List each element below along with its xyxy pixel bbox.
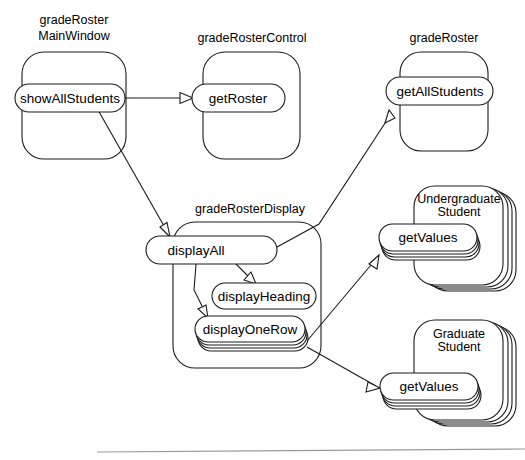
operation-show-all-students[interactable]: showAllStudents <box>15 84 125 112</box>
operation-get-roster[interactable]: getRoster <box>192 84 285 112</box>
operation-get-all-students[interactable]: getAllStudents <box>386 77 493 105</box>
object-label-graduate-student-line1: Graduate <box>433 327 485 341</box>
operation-get-values-undergraduate[interactable]: getValues <box>379 224 480 260</box>
object-label-graduate-student-line2: Student <box>437 340 481 354</box>
message-display-one-row-to-get-values-graduate[interactable] <box>307 347 380 392</box>
operation-label-get-roster: getRoster <box>209 91 268 106</box>
arrowhead-open-triangle-get-values-graduate <box>366 382 380 392</box>
message-line-display-one-row-to-get-values-graduate <box>307 347 376 386</box>
object-label-grade-roster-main-window-line2: MainWindow <box>38 29 111 43</box>
bottom-divider-rule <box>97 449 525 452</box>
object-label-grade-roster-main-window-line1: gradeRoster <box>40 13 109 27</box>
operation-label-display-one-row: displayOneRow <box>203 322 298 337</box>
object-label-grade-roster-control: gradeRosterControl <box>197 31 306 45</box>
object-label-grade-roster: gradeRoster <box>410 31 479 45</box>
operation-label-get-all-students: getAllStudents <box>396 84 483 99</box>
operation-label-show-all-students: showAllStudents <box>20 91 120 106</box>
operation-label-get-values-graduate: getValues <box>399 379 458 394</box>
uml-collaboration-diagram: gradeRoster MainWindow gradeRosterContro… <box>0 0 525 460</box>
operation-get-values-graduate[interactable]: getValues <box>380 373 481 409</box>
arrowhead-open-triangle-get-values-undergraduate <box>369 255 379 269</box>
operation-label-display-all: displayAll <box>167 243 224 258</box>
arrowhead-open-triangle-get-roster <box>180 93 193 104</box>
diagram-canvas: gradeRoster MainWindow gradeRosterContro… <box>0 0 525 460</box>
message-show-all-students-to-display-all[interactable] <box>98 110 170 237</box>
message-show-all-students-to-get-roster[interactable] <box>125 93 193 104</box>
operation-label-get-values-undergraduate: getValues <box>398 230 457 245</box>
object-label-undergraduate-student-line2: Student <box>437 205 481 219</box>
operation-display-all[interactable]: displayAll <box>146 236 277 264</box>
arrowhead-open-triangle-display-all <box>160 223 170 238</box>
object-label-grade-roster-display: gradeRosterDisplay <box>195 202 306 216</box>
operation-label-display-heading: displayHeading <box>218 289 310 304</box>
operation-display-one-row[interactable]: displayOneRow <box>195 316 308 351</box>
arrowhead-open-triangle-get-all-students <box>385 110 395 123</box>
message-line-show-all-students-to-display-all <box>98 110 168 233</box>
object-label-undergraduate-student-line1: Undergraduate <box>417 192 500 206</box>
operation-display-heading[interactable]: displayHeading <box>212 283 316 309</box>
